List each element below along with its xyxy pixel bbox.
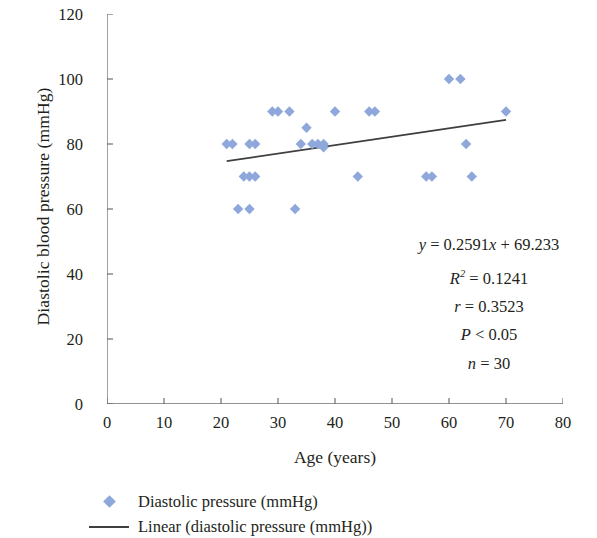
legend-item-scatter: Diastolic pressure (mmHg)	[80, 489, 372, 514]
x-tick-label-10: 10	[144, 413, 184, 433]
y-tick-label-60: 60	[43, 200, 83, 220]
legend-label-trendline: Linear (diastolic pressure (mmHg))	[138, 517, 372, 537]
n-number: = 30	[476, 354, 510, 373]
y-tick-label-120: 120	[43, 5, 83, 25]
x-tick-label-60: 60	[429, 413, 469, 433]
correlation-value: r = 0.3523	[383, 293, 595, 322]
legend-diamond-marker-key	[80, 497, 138, 506]
equation-body: = 0.2591	[426, 235, 489, 254]
regression-trendline	[227, 120, 506, 161]
sample-size: n = 30	[383, 350, 595, 379]
y-tick-label-0: 0	[43, 395, 83, 415]
diamond-marker-icon	[103, 495, 116, 508]
n-symbol: n	[468, 354, 476, 373]
r-squared-value: R2 = 0.1241	[383, 260, 595, 293]
r-squared-number: = 0.1241	[465, 268, 528, 287]
scatter-chart-figure: Diastolic blood pressure (mmHg) 120 100 …	[0, 0, 597, 538]
equation-y-symbol: y	[419, 235, 426, 254]
p-symbol: P	[461, 325, 471, 344]
y-tick-label-100: 100	[43, 70, 83, 90]
p-number: < 0.05	[471, 325, 517, 344]
r-number: = 0.3523	[461, 297, 524, 316]
legend-label-scatter: Diastolic pressure (mmHg)	[138, 492, 318, 512]
y-tick-label-80: 80	[43, 135, 83, 155]
equation-tail: + 69.233	[496, 235, 559, 254]
regression-equation: y = 0.2591x + 69.233	[383, 231, 595, 260]
x-tick-label-80: 80	[543, 413, 583, 433]
x-axis-title: Age (years)	[107, 447, 563, 468]
scatter-points	[222, 74, 512, 214]
r-squared-symbol: R	[450, 268, 460, 287]
y-tick-label-20: 20	[43, 330, 83, 350]
x-tick-label-40: 40	[315, 413, 355, 433]
y-tick-label-40: 40	[43, 265, 83, 285]
x-tick-label-20: 20	[201, 413, 241, 433]
x-tick-label-0: 0	[87, 413, 127, 433]
line-marker-icon	[89, 526, 129, 528]
x-tick-label-30: 30	[258, 413, 298, 433]
x-tick-label-70: 70	[486, 413, 526, 433]
statistics-annotation: y = 0.2591x + 69.233 R2 = 0.1241 r = 0.3…	[383, 231, 595, 378]
chart-legend: Diastolic pressure (mmHg) Linear (diasto…	[80, 489, 372, 538]
x-tick-label-50: 50	[372, 413, 412, 433]
legend-line-marker-key	[80, 526, 138, 528]
p-value: P < 0.05	[383, 321, 595, 350]
legend-item-trendline: Linear (diastolic pressure (mmHg))	[80, 514, 372, 538]
